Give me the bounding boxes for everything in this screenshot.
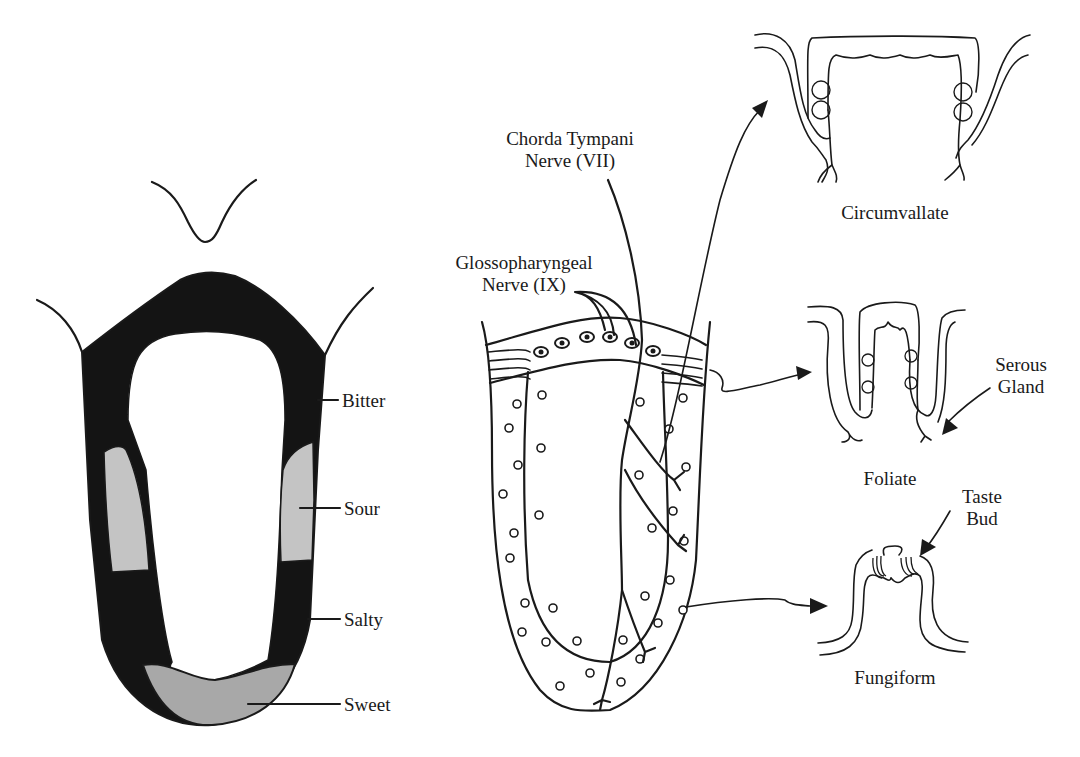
label-salty: Salty xyxy=(344,609,383,631)
serous-gland-arrow xyxy=(948,388,990,422)
label-chorda-tympani: Chorda Tympani Nerve (VII) xyxy=(490,128,650,172)
taste-bud-arrow xyxy=(926,511,950,548)
glossopharyngeal-line2: Nerve (IX) xyxy=(436,274,612,296)
label-foliate: Foliate xyxy=(840,468,940,490)
circumvallate-taste-buds xyxy=(812,81,972,121)
circumvallate-papilla xyxy=(755,34,1030,182)
tongue-section-inner xyxy=(524,372,668,662)
label-bitter: Bitter xyxy=(342,390,385,412)
label-taste-bud: Taste Bud xyxy=(952,486,1012,530)
foliate-papilla xyxy=(808,302,965,442)
nerve-branch-3 xyxy=(625,420,684,490)
serous-gland-line2: Gland xyxy=(986,376,1056,398)
arrow-to-fungiform xyxy=(686,599,810,607)
arrow-to-circumvallate xyxy=(660,110,760,462)
taste-bud-line2: Bud xyxy=(952,508,1012,530)
label-circumvallate: Circumvallate xyxy=(820,202,970,224)
label-sour: Sour xyxy=(344,498,380,520)
arrowhead-fungiform xyxy=(810,598,828,614)
label-sweet: Sweet xyxy=(344,694,390,716)
nerve-tip xyxy=(594,700,610,710)
epiglottis-outline xyxy=(152,180,256,242)
chorda-tympani-line2: Nerve (VII) xyxy=(490,150,650,172)
label-serous-gland: Serous Gland xyxy=(986,354,1056,398)
serous-gland-line1: Serous xyxy=(986,354,1056,376)
arrowhead-foliate xyxy=(796,366,812,380)
gland-circles xyxy=(499,391,690,690)
arrow-to-foliate xyxy=(710,370,808,391)
fungiform-papilla xyxy=(818,546,968,655)
label-glossopharyngeal: Glossopharyngeal Nerve (IX) xyxy=(436,252,612,296)
arrowhead-taste-bud xyxy=(920,539,936,556)
throat-right-flank xyxy=(325,288,373,355)
chorda-tympani-line1: Chorda Tympani xyxy=(490,128,650,150)
glossopharyngeal-line1: Glossopharyngeal xyxy=(436,252,612,274)
throat-left-flank xyxy=(37,300,82,352)
tongue-section-outer xyxy=(482,322,710,711)
label-fungiform: Fungiform xyxy=(830,667,960,689)
epithelium-band-bottom xyxy=(490,360,704,385)
diagram-canvas xyxy=(0,0,1080,757)
epithelium-band-top xyxy=(486,318,706,345)
taste-bud-line1: Taste xyxy=(952,486,1012,508)
